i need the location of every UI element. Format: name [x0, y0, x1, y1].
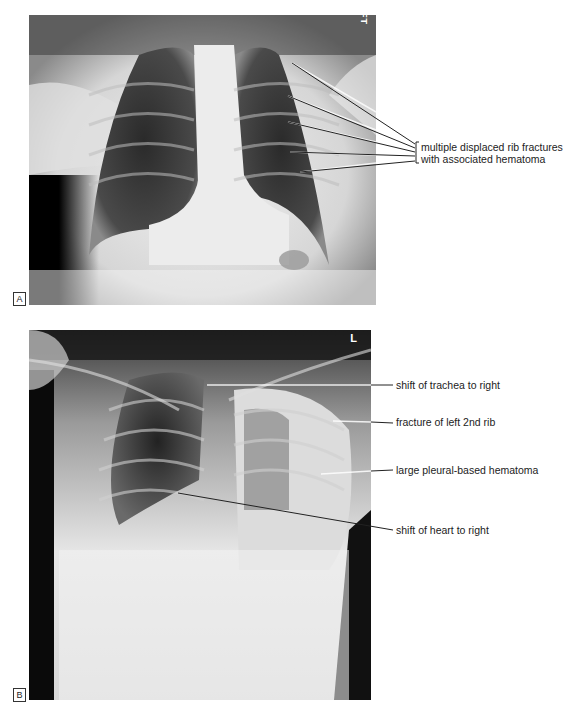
panel-label-b: B: [13, 688, 26, 702]
annotation-trachea-shift: shift of trachea to right: [396, 379, 500, 391]
side-marker-a: LEFT: [358, 15, 368, 25]
xray-image-a: LEFT: [29, 15, 376, 305]
panel-label-a: A: [13, 292, 26, 306]
chest-xray-b-graphic: [29, 330, 371, 700]
chest-xray-a-graphic: [29, 15, 376, 305]
annotation-hematoma: large pleural-based hematoma: [396, 464, 538, 476]
annotation-rib-fracture: fracture of left 2nd rib: [396, 416, 495, 428]
annotation-rib-fractures-line1: multiple displaced rib fractures: [421, 141, 563, 153]
annotation-rib-fractures: multiple displaced rib fractures with as…: [421, 141, 563, 165]
annotation-rib-fractures-line2: with associated hematoma: [421, 153, 563, 165]
annotation-heart-shift: shift of heart to right: [396, 524, 489, 536]
side-marker-b: L: [350, 332, 357, 344]
xray-image-b: L: [29, 330, 371, 700]
